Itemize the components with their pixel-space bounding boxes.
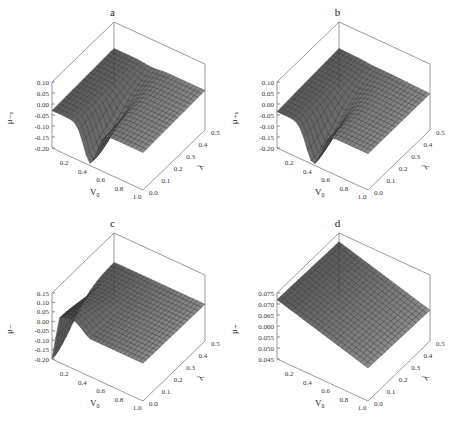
surface-plot: 0.0750.0700.0650.0600.0550.0500.0450.20.… — [225, 211, 450, 422]
svg-text:0.00: 0.00 — [37, 318, 50, 326]
svg-text:0.1: 0.1 — [386, 388, 395, 396]
svg-text:-0.15: -0.15 — [34, 134, 49, 142]
svg-text:μ₊ₓ: μ₊ₓ — [229, 111, 239, 124]
panel-b: b 0.100.050.00-0.05-0.10-0.15-0.200.20.4… — [225, 0, 450, 211]
svg-text:1.0: 1.0 — [358, 193, 367, 201]
svg-text:0.4: 0.4 — [78, 168, 87, 176]
svg-text:0.065: 0.065 — [258, 312, 274, 320]
svg-text:λ: λ — [420, 373, 431, 382]
svg-text:0.3: 0.3 — [186, 364, 195, 372]
svg-text:-0.10: -0.10 — [34, 337, 49, 345]
svg-text:0.6: 0.6 — [321, 176, 330, 184]
svg-text:0.5: 0.5 — [436, 129, 445, 137]
svg-text:0.4: 0.4 — [78, 379, 87, 387]
svg-text:0.2: 0.2 — [285, 159, 294, 167]
svg-text:μ₋: μ₋ — [4, 324, 14, 334]
surface-plot: 0.100.050.00-0.05-0.10-0.15-0.200.20.40.… — [0, 0, 225, 211]
svg-text:0.2: 0.2 — [174, 376, 183, 384]
svg-text:0.10: 0.10 — [37, 79, 50, 87]
svg-text:0.2: 0.2 — [399, 376, 408, 384]
svg-text:0.05: 0.05 — [262, 90, 275, 98]
svg-text:V0: V0 — [315, 398, 325, 409]
svg-text:0.3: 0.3 — [411, 364, 420, 372]
svg-text:-0.20: -0.20 — [34, 145, 49, 153]
svg-text:μ₋ₓ: μ₋ₓ — [4, 111, 14, 124]
svg-text:0.4: 0.4 — [303, 168, 312, 176]
svg-text:0.8: 0.8 — [114, 185, 123, 193]
svg-text:0.6: 0.6 — [96, 387, 105, 395]
svg-text:-0.10: -0.10 — [34, 123, 49, 131]
svg-text:V0: V0 — [90, 187, 100, 198]
svg-text:0.4: 0.4 — [199, 141, 208, 149]
svg-text:-0.15: -0.15 — [34, 346, 49, 354]
svg-text:0.2: 0.2 — [60, 159, 69, 167]
svg-text:0.10: 0.10 — [37, 299, 50, 307]
svg-text:0.00: 0.00 — [262, 101, 275, 109]
svg-text:0.15: 0.15 — [37, 290, 50, 298]
svg-text:0.0: 0.0 — [374, 400, 383, 408]
svg-text:0.2: 0.2 — [60, 370, 69, 378]
svg-text:0.4: 0.4 — [199, 352, 208, 360]
svg-text:0.05: 0.05 — [37, 90, 50, 98]
svg-text:-0.05: -0.05 — [34, 327, 49, 335]
svg-text:0.3: 0.3 — [186, 153, 195, 161]
svg-text:-0.20: -0.20 — [34, 356, 49, 364]
svg-text:0.070: 0.070 — [258, 301, 274, 309]
svg-text:μ₊: μ₊ — [229, 324, 239, 334]
svg-text:0.1: 0.1 — [161, 388, 170, 396]
svg-text:0.055: 0.055 — [258, 334, 274, 342]
svg-text:V0: V0 — [90, 398, 100, 409]
svg-text:0.0: 0.0 — [149, 400, 158, 408]
svg-text:-0.05: -0.05 — [259, 112, 274, 120]
svg-text:λ: λ — [420, 162, 431, 171]
svg-text:0.10: 0.10 — [262, 79, 275, 87]
svg-text:0.6: 0.6 — [321, 387, 330, 395]
svg-text:0.050: 0.050 — [258, 345, 274, 353]
svg-text:0.075: 0.075 — [258, 290, 274, 298]
svg-text:0.5: 0.5 — [211, 129, 220, 137]
svg-text:0.4: 0.4 — [424, 352, 433, 360]
svg-text:0.8: 0.8 — [114, 396, 123, 404]
svg-text:0.3: 0.3 — [411, 153, 420, 161]
svg-text:0.1: 0.1 — [386, 177, 395, 185]
svg-text:0.1: 0.1 — [161, 177, 170, 185]
svg-text:-0.05: -0.05 — [34, 112, 49, 120]
svg-text:0.8: 0.8 — [339, 185, 348, 193]
panel-d: d 0.0750.0700.0650.0600.0550.0500.0450.2… — [225, 211, 450, 422]
surface-plot: 0.100.050.00-0.05-0.10-0.15-0.200.20.40.… — [225, 0, 450, 211]
svg-text:0.4: 0.4 — [424, 141, 433, 149]
svg-text:0.2: 0.2 — [399, 165, 408, 173]
svg-text:-0.15: -0.15 — [259, 134, 274, 142]
svg-text:0.2: 0.2 — [285, 370, 294, 378]
svg-text:λ: λ — [195, 162, 206, 171]
panel-c: c 0.150.100.050.00-0.05-0.10-0.15-0.200.… — [0, 211, 225, 422]
svg-text:0.4: 0.4 — [303, 379, 312, 387]
svg-text:-0.10: -0.10 — [259, 123, 274, 131]
svg-text:λ: λ — [195, 373, 206, 382]
svg-text:0.05: 0.05 — [37, 308, 50, 316]
svg-text:0.060: 0.060 — [258, 323, 274, 331]
surface-plot: 0.150.100.050.00-0.05-0.10-0.15-0.200.20… — [0, 211, 225, 422]
svg-text:0.8: 0.8 — [339, 396, 348, 404]
svg-text:0.00: 0.00 — [37, 101, 50, 109]
svg-text:-0.20: -0.20 — [259, 145, 274, 153]
svg-text:1.0: 1.0 — [358, 404, 367, 412]
svg-text:0.5: 0.5 — [211, 340, 220, 348]
svg-text:1.0: 1.0 — [133, 193, 142, 201]
svg-text:0.5: 0.5 — [436, 340, 445, 348]
svg-text:0.2: 0.2 — [174, 165, 183, 173]
svg-text:0.6: 0.6 — [96, 176, 105, 184]
panel-a: a 0.100.050.00-0.05-0.10-0.15-0.200.20.4… — [0, 0, 225, 211]
svg-text:1.0: 1.0 — [133, 404, 142, 412]
svg-text:0.0: 0.0 — [374, 189, 383, 197]
svg-text:0.0: 0.0 — [149, 189, 158, 197]
svg-text:0.045: 0.045 — [258, 356, 274, 364]
svg-text:V0: V0 — [315, 187, 325, 198]
